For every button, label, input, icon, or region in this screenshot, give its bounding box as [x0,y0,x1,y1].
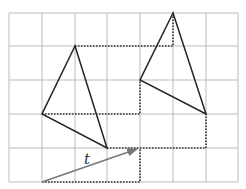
vector-label: t [84,150,90,168]
dotted-guide [107,114,206,148]
translation-diagram [0,0,246,189]
dotted-guide [75,13,173,46]
